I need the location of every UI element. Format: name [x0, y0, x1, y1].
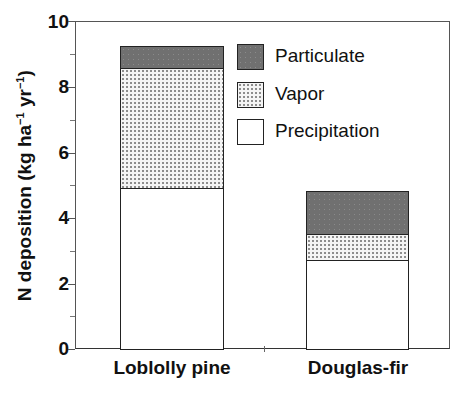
legend-swatch-particulate [237, 44, 264, 70]
x-label-loblolly-pine: Loblolly pine [102, 357, 242, 379]
bar-loblolly-pine [120, 0, 224, 394]
y-tick-minor [70, 251, 75, 252]
legend-swatch-precipitation [237, 119, 264, 145]
segment-precipitation [120, 188, 224, 350]
y-tick [68, 87, 75, 88]
legend-swatch-vapor [237, 82, 264, 108]
y-tick [68, 153, 75, 154]
y-tick-label-10: 10 [48, 11, 69, 33]
legend-label-particulate: Particulate [275, 45, 365, 67]
y-tick [68, 21, 75, 22]
y-tick [68, 284, 75, 285]
y-tick-minor [70, 54, 75, 55]
x-label-douglas-fir: Douglas-fir [288, 357, 428, 379]
y-tick-minor [70, 185, 75, 186]
segment-precipitation [306, 260, 409, 350]
y-tick [68, 218, 75, 219]
y-tick-minor [70, 316, 75, 317]
legend-label-vapor: Vapor [275, 83, 324, 105]
y-tick-minor [70, 120, 75, 121]
segment-particulate [306, 191, 409, 235]
segment-vapor [120, 68, 224, 189]
legend-label-precipitation: Precipitation [275, 120, 380, 142]
x-tick [264, 346, 265, 352]
segment-particulate [120, 46, 224, 69]
y-axis-title: N deposition (kg ha−1 yr−1) [14, 71, 36, 301]
y-tick [68, 349, 75, 350]
segment-vapor [306, 234, 409, 261]
